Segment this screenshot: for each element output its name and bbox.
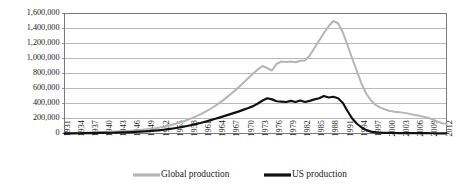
- series-group: [65, 21, 447, 133]
- x-tick-label: 1985: [317, 120, 326, 136]
- x-tick-label: 1988: [331, 120, 340, 136]
- y-axis-tick-labels: 0200,000400,000600,000800,0001,000,0001,…: [27, 8, 60, 137]
- chart-legend: Global productionUS production: [133, 169, 347, 179]
- x-tick-label: 1976: [275, 120, 284, 136]
- x-tick-label: 1940: [105, 120, 114, 136]
- x-tick-label: 1991: [346, 120, 355, 136]
- x-tick-label: 1973: [261, 120, 270, 136]
- x-tick-label: 1946: [133, 120, 142, 136]
- x-tick-label: 1970: [247, 120, 256, 136]
- y-tick-label: 800,000: [33, 68, 60, 77]
- legend-label: US production: [292, 169, 347, 179]
- y-tick-label: 0: [55, 128, 59, 137]
- y-tick-label: 600,000: [33, 83, 60, 92]
- x-tick-label: 1997: [374, 120, 383, 136]
- chart-container: 0200,000400,000600,000800,0001,000,0001,…: [0, 0, 457, 191]
- y-tick-label: 1,000,000: [27, 53, 60, 62]
- legend-label: Global production: [161, 169, 230, 179]
- y-tick-label: 1,200,000: [27, 38, 60, 47]
- y-tick-label: 1,600,000: [27, 8, 60, 17]
- y-tick-label: 200,000: [33, 113, 60, 122]
- x-tick-label: 1967: [232, 120, 241, 136]
- series-line-global-production: [65, 21, 447, 133]
- y-tick-label: 1,400,000: [27, 23, 60, 32]
- x-tick-label: 1979: [289, 120, 298, 136]
- y-tick-label: 400,000: [33, 98, 60, 107]
- x-tick-label: 1982: [303, 120, 312, 136]
- x-tick-label: 1964: [218, 120, 227, 136]
- x-tick-label: 1943: [119, 120, 128, 136]
- production-line-chart: 0200,000400,000600,000800,0001,000,0001,…: [0, 0, 457, 191]
